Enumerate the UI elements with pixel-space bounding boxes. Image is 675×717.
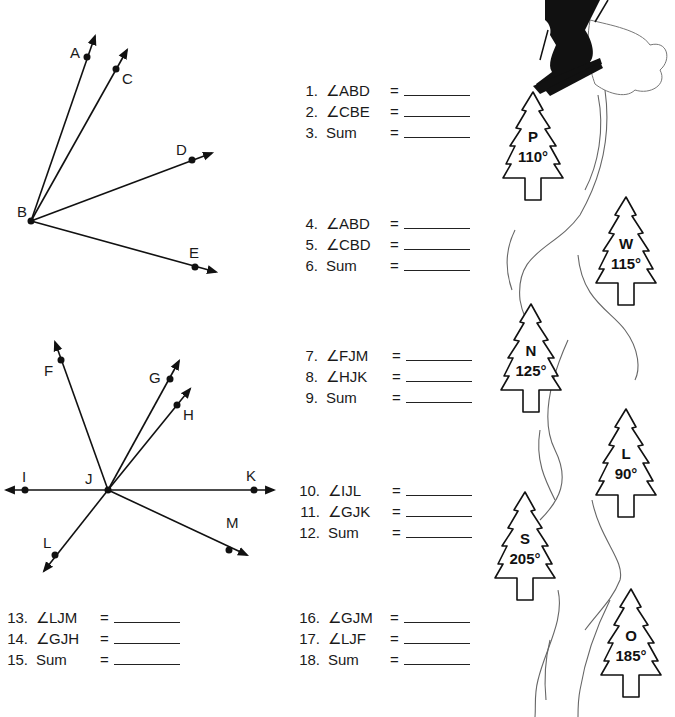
question-expression: ∠IJL [328,480,388,501]
tree-s: S 205° [495,492,555,600]
point-m [226,547,233,554]
label-a: A [70,44,80,61]
answer-blank[interactable] [404,650,470,665]
point-j [105,487,112,494]
answer-blank[interactable] [404,102,470,117]
question-number: 6. [300,255,318,276]
answer-blank[interactable] [114,629,180,644]
label-b: B [17,203,27,220]
question-9: 9.Sum= [300,387,472,408]
question-expression: Sum [36,649,96,670]
question-5: 5.∠CBD= [300,234,470,255]
point-c [113,66,120,73]
ray-jf [55,342,108,490]
answer-blank[interactable] [406,388,472,403]
point-e [192,264,199,271]
question-number: 8. [300,366,318,387]
tree-l-letter: L [621,445,630,462]
label-j: J [85,470,93,487]
question-number: 14. [6,628,28,649]
question-7: 7.∠FJM= [300,345,472,366]
question-number: 13. [6,607,28,628]
label-m: M [226,514,239,531]
answer-blank[interactable] [406,346,472,361]
answer-blank[interactable] [406,523,472,538]
answer-blank[interactable] [404,81,470,96]
question-expression: Sum [326,122,386,143]
question-8: 8.∠HJK= [300,366,472,387]
equals-sign: = [392,501,401,522]
point-k [251,487,258,494]
question-18: 18.Sum= [298,649,470,670]
question-expression: ∠GJK [328,501,388,522]
tree-w-letter: W [619,235,634,252]
question-number: 1. [300,80,318,101]
equals-sign: = [392,345,401,366]
answer-blank[interactable] [404,629,470,644]
question-number: 12. [298,522,320,543]
equals-sign: = [390,80,399,101]
question-expression: ∠LJF [328,628,386,649]
question-15: 15.Sum= [6,649,180,670]
question-number: 17. [298,628,320,649]
question-3: 3.Sum= [300,122,470,143]
answer-blank[interactable] [406,481,472,496]
tree-p-letter: P [528,128,538,145]
point-i [22,487,29,494]
question-expression: ∠ABD [326,213,386,234]
tree-l: L 90° [596,409,656,517]
question-number: 15. [6,649,28,670]
tree-o-letter: O [625,627,637,644]
point-g [167,376,174,383]
answer-blank[interactable] [404,608,470,623]
tree-o-value: 185° [615,647,646,664]
answer-blank[interactable] [404,214,470,229]
point-l [52,552,59,559]
question-10: 10.∠IJL= [298,480,472,501]
question-expression: ∠HJK [326,366,388,387]
point-a [84,54,91,61]
ray-ba [31,36,95,221]
equals-sign: = [100,628,109,649]
equals-sign: = [390,628,399,649]
answer-blank[interactable] [406,367,472,382]
tree-s-letter: S [520,530,530,547]
label-i: I [22,468,26,485]
question-number: 16. [298,607,320,628]
answer-blank[interactable] [406,502,472,517]
tree-l-value: 90° [615,465,638,482]
answer-blank[interactable] [404,235,470,250]
tree-w-value: 115° [611,255,641,272]
question-group-5: 13.∠LJM= 14.∠GJH= 15.Sum= [6,607,180,670]
question-group-4: 10.∠IJL= 11.∠GJK= 12.Sum= [298,480,472,543]
tree-s-value: 205° [509,550,540,567]
question-number: 3. [300,122,318,143]
tree-n-value: 125° [515,362,546,379]
label-d: D [176,141,187,158]
question-number: 7. [300,345,318,366]
question-17: 17.∠LJF= [298,628,470,649]
question-group-6: 16.∠GJM= 17.∠LJF= 18.Sum= [298,607,470,670]
tree-p-value: 110° [518,148,548,165]
question-expression: ∠CBD [326,234,386,255]
question-number: 10. [298,480,320,501]
question-16: 16.∠GJM= [298,607,470,628]
question-expression: ∠LJM [36,607,96,628]
equals-sign: = [100,607,109,628]
question-expression: Sum [326,387,388,408]
point-h [174,402,181,409]
question-number: 11. [298,501,320,522]
question-expression: ∠GJM [328,607,386,628]
answer-blank[interactable] [404,256,470,271]
question-12: 12.Sum= [298,522,472,543]
answer-blank[interactable] [404,123,470,138]
equals-sign: = [390,213,399,234]
equals-sign: = [390,649,399,670]
equals-sign: = [392,480,401,501]
answer-blank[interactable] [114,608,180,623]
ray-bc [31,50,127,221]
answer-blank[interactable] [114,650,180,665]
tree-n-letter: N [526,342,537,359]
equals-sign: = [390,101,399,122]
equals-sign: = [390,122,399,143]
